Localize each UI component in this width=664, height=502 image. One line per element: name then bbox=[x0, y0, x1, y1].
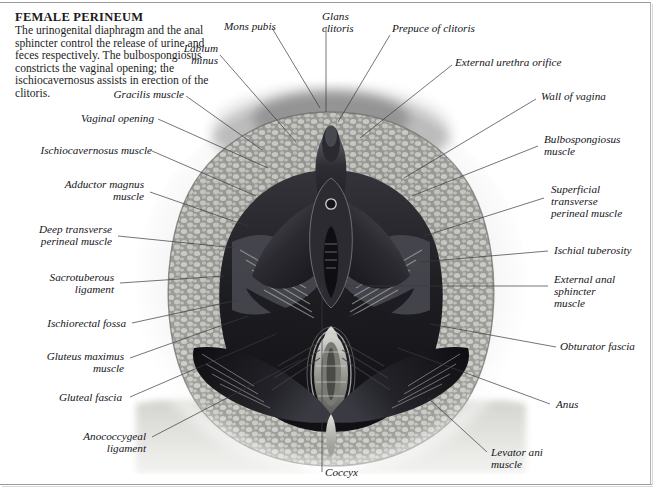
label-levator-ani-muscle: Levator ani muscle bbox=[491, 446, 543, 470]
label-sacrotuberous-ligament: Sacrotuberous ligament bbox=[14, 271, 114, 295]
label-labium-minus: Labium minus bbox=[128, 42, 218, 66]
label-ischiocavernosus-muscle: Ischiocavernosus muscle bbox=[20, 144, 152, 156]
label-ischial-tuberosity: Ischial tuberosity bbox=[554, 244, 632, 256]
label-mons-pubis: Mons pubis bbox=[224, 20, 276, 32]
frame-rule-bottom bbox=[0, 484, 652, 485]
label-external-urethra-orifice: External urethra orifice bbox=[455, 56, 561, 68]
frame-rule-bottom-shadow bbox=[2, 486, 653, 487]
label-gluteal-fascia: Gluteal fascia bbox=[22, 391, 122, 403]
label-external-anal-sphincter-muscle: External anal sphincter muscle bbox=[554, 273, 615, 310]
label-gluteus-maximus-muscle: Gluteus maximus muscle bbox=[18, 350, 124, 374]
label-vaginal-opening: Vaginal opening bbox=[48, 112, 154, 124]
label-superficial-transverse-perineal-muscle: Superficial transverse perineal muscle bbox=[551, 183, 622, 220]
label-prepuce-of-clitoris: Prepuce of clitoris bbox=[392, 22, 475, 34]
label-adductor-magnus-muscle: Adductor magnus muscle bbox=[32, 178, 144, 202]
frame-rule-top bbox=[0, 2, 650, 3]
page-title: FEMALE PERINEUM bbox=[15, 10, 143, 25]
perineum-illustration bbox=[128, 74, 534, 474]
label-anus: Anus bbox=[556, 398, 578, 410]
anatomy-plate: FEMALE PERINEUM The urinogenital diaphra… bbox=[0, 0, 664, 502]
frame-rule-right-shadow bbox=[652, 4, 653, 485]
label-deep-transverse-perineal-muscle: Deep transverse perineal muscle bbox=[0, 223, 112, 247]
label-bulbospongiosus-muscle: Bulbospongiosus muscle bbox=[544, 133, 620, 157]
label-gracilis-muscle: Gracilis muscle bbox=[80, 88, 184, 100]
frame-rule-right bbox=[650, 2, 651, 485]
label-glans-clitoris: Glans clitoris bbox=[322, 10, 354, 34]
label-coccyx: Coccyx bbox=[325, 466, 358, 478]
label-ischiorectal-fossa: Ischiorectal fossa bbox=[14, 317, 126, 329]
label-wall-of-vagina: Wall of vagina bbox=[541, 90, 606, 102]
label-anococcygeal-ligament: Anococcygeal ligament bbox=[46, 430, 146, 454]
label-obturator-fascia: Obturator fascia bbox=[560, 340, 635, 352]
